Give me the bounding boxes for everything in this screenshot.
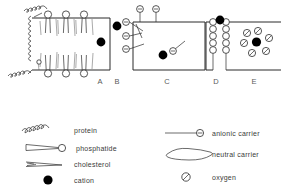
panel-label-d: D [213, 77, 219, 86]
legend-label-anionic-carrier: anionic carrier [212, 130, 260, 137]
cation-symbol [43, 175, 52, 184]
figure-background [0, 0, 283, 191]
panel-b [113, 22, 122, 31]
oxygen-atom [265, 34, 272, 41]
panel-label-e: E [251, 77, 256, 86]
legend-label-neutral-carrier: neutral carrier [212, 151, 259, 158]
legend-label-cholesterol: cholesterol [74, 161, 111, 168]
oxygen-atom [240, 39, 247, 46]
legend-label-protein: protein [74, 127, 97, 135]
oxygen-atom [243, 29, 250, 36]
panel-label-c: C [164, 77, 170, 86]
cation-panel-b [113, 22, 122, 31]
membrane-transport-figure: A B C D E protein phosphatide [0, 0, 283, 191]
panel-label-a: A [97, 77, 102, 86]
cation-panel-a [97, 38, 106, 47]
cation-panel-e [252, 37, 261, 46]
oxygen-atom [248, 49, 255, 56]
panel-label-b: B [114, 77, 119, 86]
oxygen-atom [262, 47, 269, 54]
oxygen-symbol [182, 173, 190, 181]
cation-panel-c [159, 51, 168, 60]
legend-label-cation: cation [74, 177, 94, 184]
legend-label-phosphatide: phosphatide [76, 145, 117, 153]
cation-panel-d [216, 16, 225, 25]
oxygen-atom [254, 27, 261, 34]
legend-label-oxygen: oxygen [212, 174, 236, 182]
